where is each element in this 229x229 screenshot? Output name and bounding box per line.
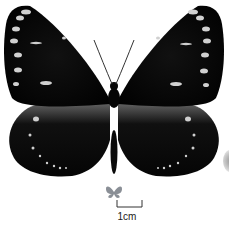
right-hindwing bbox=[118, 101, 219, 176]
butterfly-illustration bbox=[0, 0, 229, 229]
scale-bar-label: 1cm bbox=[112, 211, 142, 222]
left-hindwing bbox=[9, 101, 110, 176]
thorax bbox=[108, 88, 120, 108]
scale-bar bbox=[117, 200, 142, 207]
butterfly-size-icon bbox=[106, 187, 122, 198]
abdomen bbox=[111, 130, 118, 174]
specimen-photo: 1cm bbox=[0, 0, 229, 229]
